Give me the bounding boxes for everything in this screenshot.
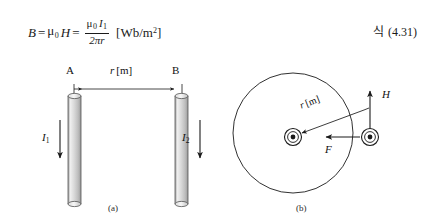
equation-lhs: B	[28, 26, 36, 39]
conductor-center-out-of-page	[285, 129, 302, 146]
label-field-vector-h: H	[382, 88, 390, 100]
equation-numerator: μ0I1	[85, 18, 110, 33]
label-distance-r-a: r[m]	[110, 64, 132, 76]
equation-mu-zero: μ0	[47, 24, 58, 39]
label-conductor-b: B	[172, 64, 179, 76]
equation-label-number: (4.31)	[388, 25, 417, 39]
radius-arrow-tail	[364, 108, 369, 110]
figure-stage: B = μ0 H = μ0I1 2πr [Wb/m2] 식(4.31)	[0, 0, 433, 220]
equation-equals-1: =	[38, 26, 45, 39]
label-current-i2: I2	[182, 131, 189, 145]
caption-figure-a: (a)	[108, 203, 118, 213]
label-force-vector-f: F	[325, 143, 332, 155]
equation-H: H	[61, 26, 70, 39]
distance-dimension-a	[74, 84, 182, 94]
equation-fraction: μ0I1 2πr	[85, 18, 110, 46]
label-conductor-a: A	[66, 64, 74, 76]
equation-label-prefix: 식	[373, 25, 384, 39]
conductor-rod-a-left	[68, 93, 81, 206]
equation-number-label: 식(4.31)	[373, 22, 417, 40]
equation-denominator: 2πr	[87, 34, 106, 47]
caption-figure-b: (b)	[296, 203, 307, 213]
equation-equals-2: =	[72, 26, 79, 39]
radius-arrow-r	[302, 110, 364, 133]
label-current-i1: I1	[42, 131, 49, 145]
conductor-rod-b-right	[175, 93, 188, 206]
equation-4-31: B = μ0 H = μ0I1 2πr [Wb/m2]	[28, 18, 161, 46]
equation-units: [Wb/m2]	[116, 26, 161, 39]
figure-b-svg	[222, 58, 432, 218]
figure-a-svg	[0, 58, 230, 218]
conductor-perimeter-out-of-page	[362, 129, 379, 146]
